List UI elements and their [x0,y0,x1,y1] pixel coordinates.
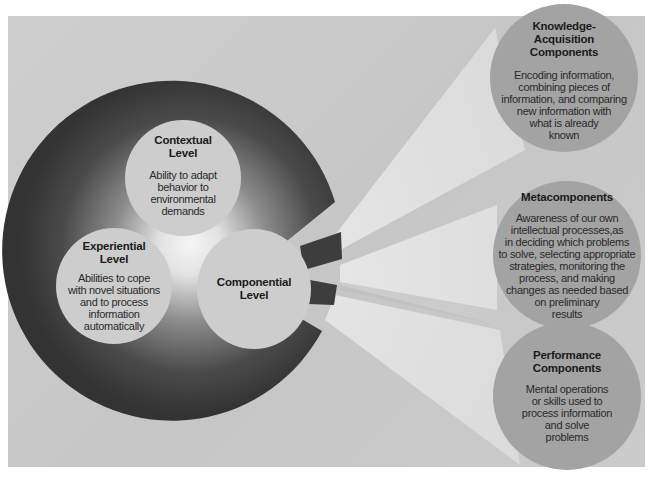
performance-components-circle: Performance Components Mental operations… [493,322,641,470]
metacomponents-circle: Metacomponents Awareness of our own inte… [493,181,641,329]
knowledge-acquisition-title: Knowledge- Acquisition Components [530,20,598,59]
metacomponents-title: Metacomponents [521,191,613,204]
performance-components-description: Mental operations or skills used to proc… [522,383,612,443]
diagram-canvas: Contextual Level Ability to adapt behavi… [0,0,655,477]
knowledge-acquisition-description: Encoding information, combining pieces o… [501,69,627,141]
metacomponents-description: Awareness of our own intellectual proces… [499,212,636,320]
contextual-level-description: Ability to adapt behavior to environment… [149,169,216,217]
contextual-level-circle: Contextual Level Ability to adapt behavi… [125,120,241,236]
experiential-level-title: Experiential Level [83,240,146,266]
componential-level-title: Componential Level [217,276,291,302]
knowledge-acquisition-circle: Knowledge- Acquisition Components Encodi… [490,4,638,152]
spoke-2 [308,280,337,305]
contextual-level-title: Contextual Level [154,134,211,160]
componential-level-circle: Componential Level [197,229,311,349]
performance-components-title: Performance Components [533,349,601,375]
experiential-level-circle: Experiential Level Abilities to cope wit… [56,228,172,344]
experiential-level-description: Abilities to cope with novel situations … [68,272,160,332]
